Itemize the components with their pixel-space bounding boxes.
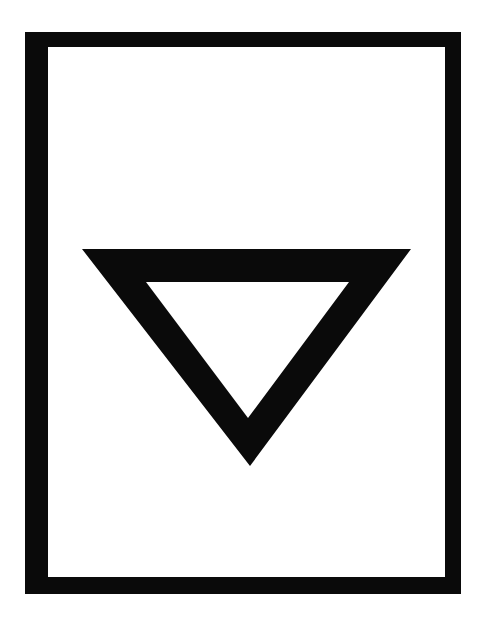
figure-canvas: Inverted triangle symbol in rectangular … xyxy=(0,0,494,619)
symbol-graphic xyxy=(0,0,494,619)
inverted-triangle-icon xyxy=(82,249,411,466)
rectangular-frame xyxy=(25,32,461,594)
